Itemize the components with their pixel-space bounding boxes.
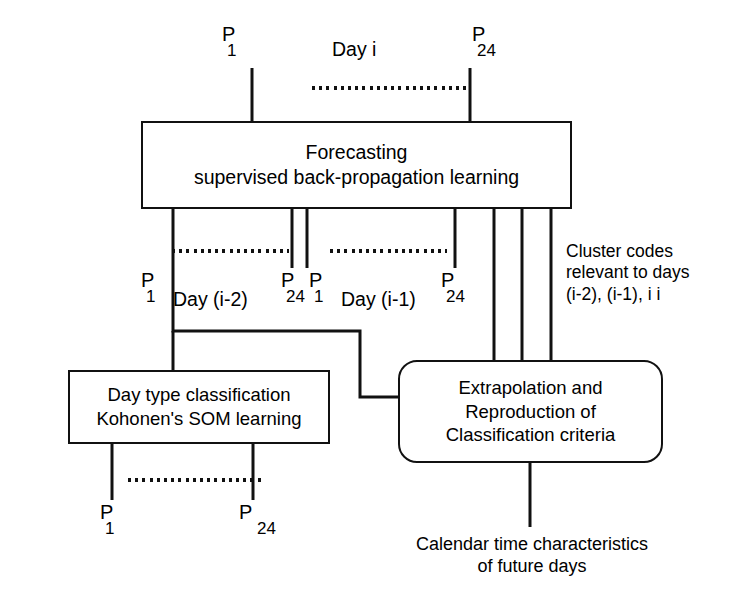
cluster-codes-line3: (i-2), (i-1), i i bbox=[566, 284, 690, 305]
forecasting-box-line1: Forecasting bbox=[143, 140, 570, 165]
port-label-top-p24: P 24 bbox=[472, 26, 496, 59]
ellipsis-dots-day-i1 bbox=[330, 249, 447, 253]
forecasting-box-line2: supervised back-propagation learning bbox=[143, 165, 570, 190]
port-index: 24 bbox=[281, 289, 305, 305]
ellipsis-dots-day-i2 bbox=[172, 249, 289, 253]
calendar-line1: Calendar time characteristics bbox=[416, 534, 648, 556]
label-cluster-codes: Cluster codes relevant to days (i-2), (i… bbox=[566, 241, 690, 305]
diagram-canvas: Forecasting supervised back-propagation … bbox=[0, 0, 733, 607]
port-index: 1 bbox=[309, 289, 323, 305]
port-index: 1 bbox=[100, 521, 114, 537]
cluster-codes-line1: Cluster codes bbox=[566, 241, 690, 262]
ellipsis-dots-bottom bbox=[128, 478, 263, 482]
som-box-line1: Day type classification bbox=[70, 383, 328, 407]
day-type-classification-box: Day type classification Kohonen's SOM le… bbox=[68, 370, 330, 444]
extrapolation-box-line2: Reproduction of bbox=[400, 400, 661, 424]
port-index: 24 bbox=[239, 521, 276, 537]
port-label-bottom-p1: P 1 bbox=[100, 504, 114, 537]
port-index: 24 bbox=[441, 289, 465, 305]
port-index: 1 bbox=[141, 289, 155, 305]
port-index: 24 bbox=[472, 43, 496, 59]
forecasting-box: Forecasting supervised back-propagation … bbox=[141, 121, 572, 209]
port-label-mid-day-i2-p1: P 1 bbox=[141, 272, 155, 305]
cluster-codes-line2: relevant to days bbox=[566, 262, 690, 283]
extrapolation-box-line3: Classification criteria bbox=[400, 423, 661, 447]
port-label-mid-day-i1-p24: P 24 bbox=[441, 272, 465, 305]
ellipsis-dots-top bbox=[312, 86, 470, 90]
port-index: 1 bbox=[222, 43, 236, 59]
port-label-bottom-p24: P 24 bbox=[239, 504, 276, 537]
label-day-i-minus-1: Day (i-1) bbox=[341, 288, 416, 312]
calendar-line2: of future days bbox=[416, 556, 648, 578]
label-day-i: Day i bbox=[332, 38, 376, 62]
extrapolation-reproduction-box: Extrapolation and Reproduction of Classi… bbox=[398, 360, 663, 463]
extrapolation-box-line1: Extrapolation and bbox=[400, 376, 661, 400]
som-box-line2: Kohonen's SOM learning bbox=[70, 407, 328, 431]
port-label-mid-day-i1-p1: P 1 bbox=[309, 272, 323, 305]
label-day-i-minus-2: Day (i-2) bbox=[173, 288, 248, 312]
label-calendar-time-characteristics: Calendar time characteristics of future … bbox=[416, 534, 648, 578]
port-label-mid-day-i2-p24: P 24 bbox=[281, 272, 305, 305]
port-label-top-p1: P 1 bbox=[222, 26, 236, 59]
